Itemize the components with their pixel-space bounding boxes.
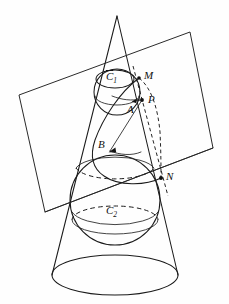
label-p: P — [148, 94, 155, 105]
point-n — [159, 176, 163, 180]
dandelin-sphere-figure: C1 M P A B N C2 — [0, 0, 229, 304]
label-c2: C2 — [106, 205, 117, 219]
point-p — [140, 98, 144, 102]
geometry-canvas — [0, 0, 229, 304]
label-a: A — [127, 104, 134, 115]
point-m — [137, 76, 141, 80]
label-c1: C1 — [106, 70, 117, 85]
label-b: B — [98, 139, 105, 150]
label-n: N — [166, 171, 173, 182]
label-m: M — [144, 70, 153, 81]
cone-base-ellipse — [52, 255, 178, 295]
circle-c2-front-arc — [72, 220, 158, 234]
